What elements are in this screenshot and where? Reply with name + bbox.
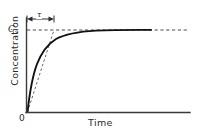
plot-canvas [0,0,197,135]
cs-label-main: C [8,24,15,34]
initial-tangent-line [28,30,55,112]
saturation-concentration-label: Cs [8,25,18,36]
concentration-vs-time-figure: Concentration Time Cs 0 τ [0,0,197,135]
tau-arrow-head-left-icon [27,16,33,21]
origin-label: 0 [19,114,25,123]
concentration-curve [28,30,152,112]
tau-arrow-head-right-icon [49,16,55,21]
cs-label-subscript: s [15,28,18,36]
x-axis-label: Time [88,118,113,128]
time-constant-label: τ [36,11,42,19]
